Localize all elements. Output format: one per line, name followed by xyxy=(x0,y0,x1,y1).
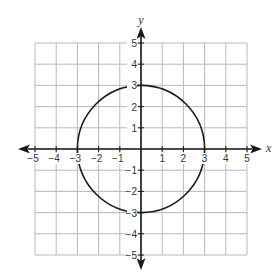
x-tick-label: −2 xyxy=(91,153,103,164)
x-tick-label: 5 xyxy=(244,153,250,164)
y-tick-label: 2 xyxy=(131,102,137,113)
y-tick-label: −4 xyxy=(126,229,138,240)
y-tick-label: 5 xyxy=(131,38,137,49)
y-tick-label: −5 xyxy=(126,250,138,261)
x-tick-label: −4 xyxy=(48,153,60,164)
y-tick-label: −2 xyxy=(126,186,138,197)
x-tick-label: 1 xyxy=(159,153,165,164)
x-tick-label: −5 xyxy=(27,153,39,164)
x-tick-label: 4 xyxy=(223,153,229,164)
x-tick-label: 2 xyxy=(181,153,187,164)
y-tick-label: −1 xyxy=(126,165,138,176)
y-tick-label: −3 xyxy=(126,208,138,219)
y-axis-label: y xyxy=(137,13,144,27)
x-tick-label: −3 xyxy=(70,153,82,164)
x-tick-label: −1 xyxy=(112,153,124,164)
x-axis-label: x xyxy=(265,141,272,155)
coordinate-plane: −5−4−3−2−11234554321−1−2−3−4−5 x y xyxy=(0,0,280,280)
x-tick-label: 3 xyxy=(202,153,208,164)
y-tick-label: 1 xyxy=(131,123,137,134)
y-tick-label: 3 xyxy=(131,80,137,91)
y-tick-label: 4 xyxy=(131,59,137,70)
